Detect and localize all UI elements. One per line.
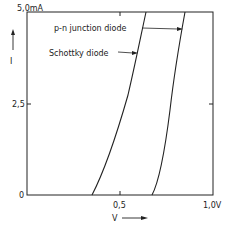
plot-frame — [27, 12, 213, 195]
x-tick-label-mid: 0,5 — [113, 201, 126, 210]
x-axis-label: V — [112, 214, 118, 223]
v-axis-arrowhead-icon — [141, 216, 148, 220]
diode-iv-chart: 5,0mA 2,5 0 0,5 1,0V I V p-n junction di… — [0, 0, 235, 225]
y-axis-label: I — [10, 57, 12, 66]
schottky-label: Schottky diode — [49, 49, 109, 58]
y-tick-label-top: 5,0mA — [17, 4, 44, 13]
pn-arrow-line — [142, 28, 178, 29]
pn-junction-curve — [152, 12, 185, 195]
y-tick-label-mid: 2,5 — [12, 100, 25, 109]
i-axis-arrowhead-icon — [11, 29, 15, 35]
schottky-curve — [92, 12, 146, 195]
pn-junction-label: p-n junction diode — [54, 24, 126, 33]
origin-label: 0 — [19, 191, 24, 200]
schottky-arrow-line — [118, 52, 133, 53]
x-tick-label-right: 1,0V — [203, 201, 222, 210]
